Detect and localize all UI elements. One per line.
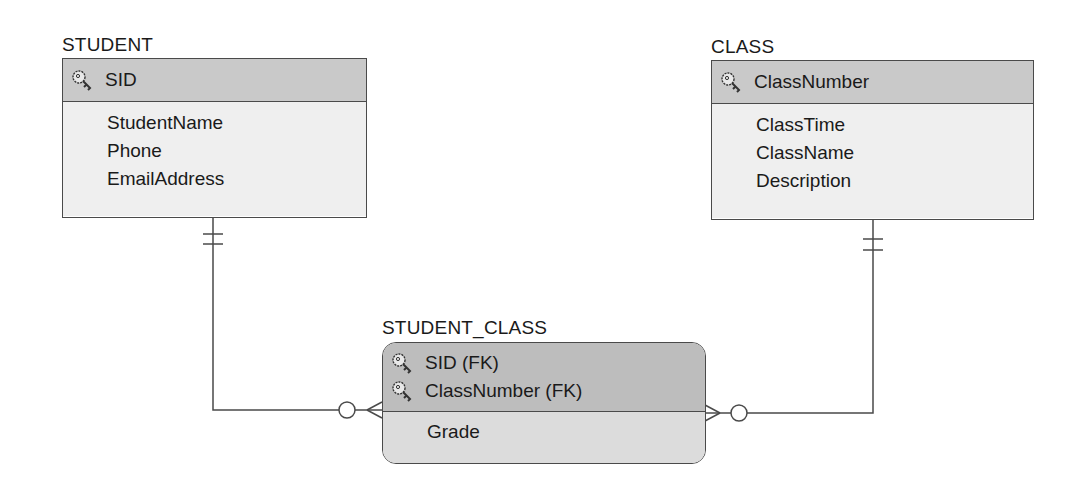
- entity-class[interactable]: ClassNumber ClassTime ClassName Descript…: [711, 60, 1034, 220]
- key-row: SID (FK): [383, 351, 705, 375]
- crows-foot: [367, 410, 382, 418]
- attribute: ClassTime: [712, 111, 1033, 139]
- entity-title-student-class: STUDENT_CLASS: [382, 317, 547, 339]
- crows-foot: [367, 402, 382, 410]
- entity-student[interactable]: SID StudentName Phone EmailAddress: [62, 58, 367, 218]
- key-label: ClassNumber (FK): [425, 380, 582, 402]
- key-label: SID: [105, 69, 137, 91]
- key-icon: [387, 351, 417, 375]
- entity-key-section: SID (FK) ClassNumber (FK): [383, 343, 705, 412]
- entity-attribute-section: ClassTime ClassName Description: [712, 104, 1033, 218]
- entity-key-section: ClassNumber: [712, 61, 1033, 104]
- attribute: Description: [712, 167, 1033, 195]
- entity-student-class[interactable]: SID (FK) ClassNumber (FK) Grade: [382, 342, 706, 464]
- key-label: ClassNumber: [754, 71, 869, 93]
- key-row: ClassNumber (FK): [383, 379, 705, 403]
- key-icon: [716, 70, 746, 94]
- key-label: SID (FK): [425, 352, 499, 374]
- entity-attribute-section: Grade: [383, 412, 705, 464]
- attribute: ClassName: [712, 139, 1033, 167]
- entity-attribute-section: StudentName Phone EmailAddress: [63, 102, 366, 216]
- entity-title-class: CLASS: [711, 36, 774, 58]
- key-row: SID: [63, 68, 366, 92]
- optional-circle: [731, 405, 747, 421]
- optional-circle: [339, 402, 355, 418]
- attribute: EmailAddress: [63, 165, 366, 193]
- attribute: Grade: [383, 418, 705, 446]
- attribute: Phone: [63, 137, 366, 165]
- relationship-class-studentclass: [705, 219, 883, 421]
- entity-title-student: STUDENT: [62, 34, 153, 56]
- key-row: ClassNumber: [712, 70, 1033, 94]
- crows-foot: [705, 413, 720, 421]
- attribute: StudentName: [63, 109, 366, 137]
- entity-key-section: SID: [63, 59, 366, 102]
- relationship-student-studentclass: [203, 217, 382, 418]
- key-icon: [67, 68, 97, 92]
- key-icon: [387, 379, 417, 403]
- crows-foot: [705, 405, 720, 413]
